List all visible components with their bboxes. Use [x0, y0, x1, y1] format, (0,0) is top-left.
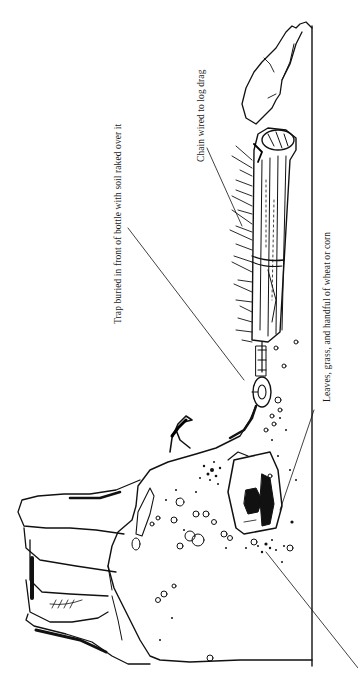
chain-leader-line: [207, 148, 242, 226]
trap-set-drawing: [0, 0, 358, 678]
label-bait: Leaves, grass, and handful of wheat or c…: [322, 232, 332, 402]
trap-leader-line: [128, 228, 244, 380]
soil-mound: [108, 406, 312, 662]
stump: [18, 480, 150, 664]
bait-leader-line: [280, 410, 314, 510]
label-chain: Chain wired to log drag: [196, 69, 206, 162]
pebbles: [150, 340, 298, 661]
soil-stipple: [159, 417, 297, 641]
illustration: [0, 0, 358, 678]
label-trap: Trap buried in front of bottle with soil…: [113, 124, 123, 324]
trap: [252, 377, 271, 407]
rock: [242, 22, 312, 124]
grass-tufts: [230, 144, 262, 342]
bottle: [228, 452, 282, 534]
